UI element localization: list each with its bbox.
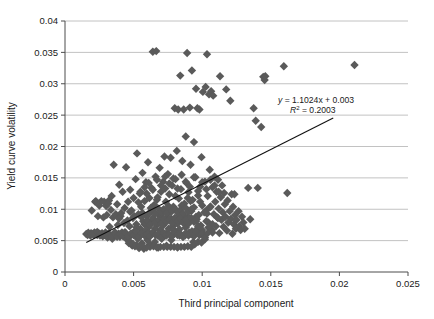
x-axis-title: Third principal component bbox=[178, 298, 293, 309]
x-tick-label: 0.01 bbox=[193, 278, 212, 289]
y-tick-label: 0.005 bbox=[34, 235, 58, 246]
x-tick-label: 0.025 bbox=[396, 278, 420, 289]
y-tick-label: 0.025 bbox=[34, 110, 58, 121]
x-tick-label: 0.02 bbox=[330, 278, 349, 289]
scatter-chart-figure: 00.0050.010.0150.020.0250.030.0350.04 00… bbox=[0, 0, 434, 319]
y-tick-label: 0.01 bbox=[40, 204, 59, 215]
x-tick-label: 0 bbox=[62, 278, 67, 289]
x-tick-label: 0.005 bbox=[122, 278, 146, 289]
y-tick-label: 0.03 bbox=[40, 78, 59, 89]
y-tick-label: 0.035 bbox=[34, 47, 58, 58]
trendline-equation-label: y = 1.1024x + 0.003 bbox=[277, 95, 354, 105]
y-tick-label: 0.04 bbox=[40, 15, 59, 26]
y-axis-title: Yield curve volatility bbox=[6, 102, 17, 189]
plot-svg: 00.0050.010.0150.020.0250.030.0350.04 00… bbox=[0, 0, 434, 319]
x-tick-label: 0.015 bbox=[259, 278, 283, 289]
y-tick-label: 0 bbox=[53, 266, 58, 277]
y-tick-label: 0.015 bbox=[34, 172, 58, 183]
y-tick-label: 0.02 bbox=[40, 141, 59, 152]
